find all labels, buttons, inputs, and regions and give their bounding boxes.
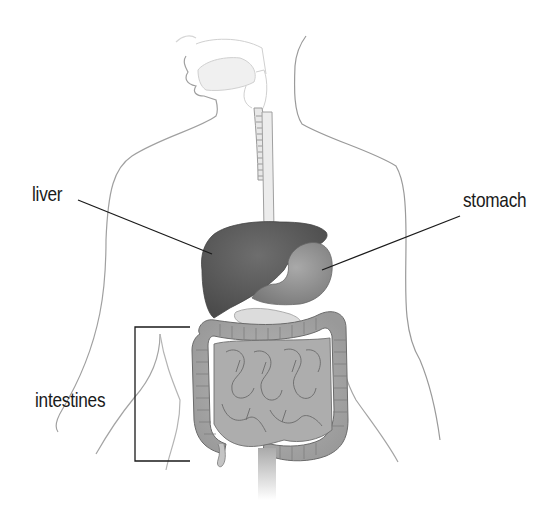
anatomy-illustration — [0, 0, 560, 515]
stomach-label: stomach — [463, 189, 526, 210]
rectum — [258, 448, 276, 500]
digestive-system-diagram: liver stomach intestines — [0, 0, 560, 515]
liver-label: liver — [32, 183, 62, 204]
head-internals — [196, 39, 267, 110]
esophagus — [262, 112, 274, 230]
liver-leader-line — [78, 200, 212, 254]
stomach-leader-line — [322, 216, 460, 270]
intestines-label: intestines — [35, 389, 105, 410]
